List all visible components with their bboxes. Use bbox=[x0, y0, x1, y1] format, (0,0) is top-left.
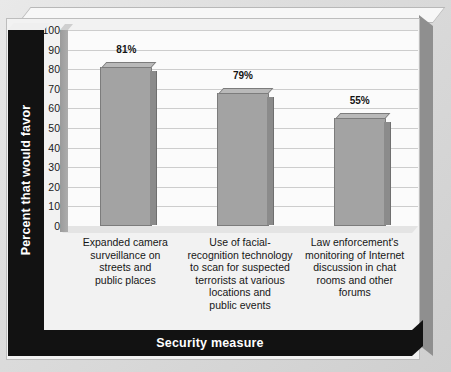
category-label-line: Expanded camera bbox=[71, 236, 180, 249]
category-label-1: Expanded camerasurveillance onstreets an… bbox=[68, 236, 183, 328]
category-label-line: surveillance on bbox=[71, 249, 180, 262]
bar-side-face-2 bbox=[267, 97, 274, 225]
y-axis-wall bbox=[60, 30, 68, 232]
x-axis-title: Security measure bbox=[156, 336, 263, 350]
plot-canvas: 81%79%55% bbox=[68, 30, 418, 226]
category-label-line: public places bbox=[71, 274, 180, 287]
y-axis-tick-20: 20 bbox=[48, 181, 60, 193]
category-label-line: streets and bbox=[71, 261, 180, 274]
category-label-line: terrorists at various bbox=[186, 274, 295, 287]
y-axis-title-bar-bevel bbox=[8, 23, 50, 30]
category-label-line: discussion in chat bbox=[300, 261, 409, 274]
bar-value-label-2: 79% bbox=[233, 70, 253, 81]
category-label-line: Law enforcement's bbox=[300, 236, 409, 249]
y-axis-tick-30: 30 bbox=[48, 161, 60, 173]
bar-top-face-1 bbox=[101, 62, 156, 68]
bar-slot-3: 55% bbox=[301, 30, 418, 226]
bar-slot-2: 79% bbox=[185, 30, 302, 226]
category-label-3: Law enforcement'smonitoring of Internetd… bbox=[297, 236, 412, 328]
y-axis-tick-50: 50 bbox=[48, 122, 60, 134]
y-axis-tick-60: 60 bbox=[48, 102, 60, 114]
y-axis-tick-80: 80 bbox=[48, 63, 60, 75]
bars-layer: 81%79%55% bbox=[68, 30, 418, 226]
y-axis-title-bar: Percent that would favor bbox=[8, 30, 44, 330]
bar-value-label-1: 81% bbox=[116, 44, 136, 55]
x-axis-category-labels: Expanded camerasurveillance onstreets an… bbox=[68, 236, 412, 328]
category-label-line: locations and bbox=[186, 286, 295, 299]
bar-top-face-2 bbox=[218, 88, 273, 94]
category-label-line: monitoring of Internet bbox=[300, 249, 409, 262]
bar-2[interactable] bbox=[217, 93, 269, 226]
x-axis-floor bbox=[62, 226, 418, 233]
category-label-line: rooms and other bbox=[300, 274, 409, 287]
category-label-line: forums bbox=[300, 286, 409, 299]
category-label-line: recognition technology bbox=[186, 249, 295, 262]
bar-3[interactable] bbox=[334, 118, 386, 226]
bar-side-face-1 bbox=[150, 71, 157, 225]
x-axis-title-bar: Security measure bbox=[8, 330, 412, 356]
bar-side-face-3 bbox=[384, 122, 391, 225]
y-axis-tick-90: 90 bbox=[48, 44, 60, 56]
y-axis-tick-40: 40 bbox=[48, 142, 60, 154]
y-axis-tick-10: 10 bbox=[48, 200, 60, 212]
bar-1[interactable] bbox=[100, 67, 152, 226]
figure-plate-right-bevel bbox=[419, 15, 433, 356]
bar-top-face-3 bbox=[335, 113, 390, 119]
y-axis-tick-0: 0 bbox=[54, 220, 60, 232]
category-label-line: public events bbox=[186, 299, 295, 312]
bar-chart-figure: Percent that would favor Security measur… bbox=[0, 0, 451, 372]
bar-slot-1: 81% bbox=[68, 30, 185, 226]
y-axis-tick-70: 70 bbox=[48, 83, 60, 95]
y-axis-title: Percent that would favor bbox=[19, 105, 33, 256]
category-label-2: Use of facial-recognition technologyto s… bbox=[183, 236, 298, 328]
bar-value-label-3: 55% bbox=[350, 95, 370, 106]
category-label-line: Use of facial- bbox=[186, 236, 295, 249]
category-label-line: to scan for suspected bbox=[186, 261, 295, 274]
